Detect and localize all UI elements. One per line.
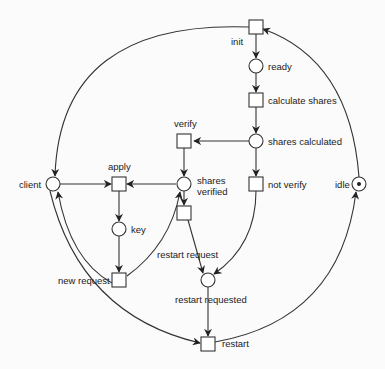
label-client: client	[19, 179, 42, 190]
label-restart: restart	[222, 338, 249, 349]
transition-new-request	[112, 273, 126, 287]
label-shares-calculated: shares calculated	[268, 136, 342, 147]
transition-init	[249, 20, 263, 34]
place-restart-requested	[201, 273, 215, 287]
transition-not-verify	[249, 177, 263, 191]
arc-init-client	[55, 27, 249, 176]
label-calculate-shares: calculate shares	[268, 95, 337, 106]
label-ready: ready	[268, 61, 292, 72]
arc-restart-idle	[215, 192, 356, 342]
place-shares-calculated	[249, 134, 263, 148]
place-client	[46, 177, 60, 191]
label-init: init	[231, 36, 244, 47]
label-new-request: new request	[58, 275, 110, 286]
petri-net-diagram: init ready calculate shares verify share…	[0, 0, 385, 369]
place-key	[112, 222, 126, 236]
label-key: key	[131, 224, 146, 235]
transition-restart	[201, 337, 215, 351]
arc-notverify-restartrequested	[214, 191, 256, 274]
label-verified: verified	[197, 186, 228, 197]
label-restart-requested: restart requested	[175, 294, 247, 305]
transition-calculate-shares	[249, 93, 263, 107]
label-verify: verify	[174, 118, 197, 129]
arc-restartrequest-restartrequested	[188, 220, 203, 273]
place-ready	[249, 59, 263, 73]
place-shares-verified	[177, 177, 191, 191]
label-not-verify: not verify	[268, 179, 307, 190]
transition-restart-request	[177, 206, 191, 220]
label-apply: apply	[108, 161, 131, 172]
transition-apply	[112, 177, 126, 191]
token-idle	[357, 182, 361, 186]
transition-verify	[177, 134, 191, 148]
label-idle: idle	[335, 179, 350, 190]
label-shares: shares	[197, 175, 226, 186]
label-restart-request: restart request	[157, 249, 219, 260]
